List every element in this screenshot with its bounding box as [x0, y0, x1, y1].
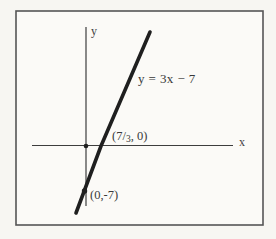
x-intercept-label-pre: (7/: [112, 129, 126, 143]
y-intercept-label: (0,-7): [90, 188, 118, 202]
figure-frame: [16, 11, 263, 225]
textbook-figure-page: y x y = 3x − 7 (7/3, 0) (0,-7): [0, 0, 276, 239]
x-intercept-label: (7/3, 0): [112, 129, 147, 144]
equation-label: y = 3x − 7: [138, 71, 196, 86]
y-intercept-dot: [82, 188, 87, 193]
x-axis-label: x: [239, 135, 245, 149]
figure-canvas: y x y = 3x − 7 (7/3, 0) (0,-7): [0, 0, 276, 239]
x-intercept-label-post: , 0): [131, 129, 148, 143]
origin-point-dot: [84, 144, 89, 149]
y-axis-label: y: [91, 24, 97, 38]
